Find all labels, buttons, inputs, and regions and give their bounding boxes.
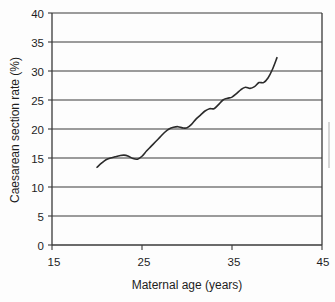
y-axis-title: Caesarean section rate (%): [8, 57, 22, 203]
y-tick-label-20: 20: [31, 124, 44, 136]
chart-screenshot: 40 35 30 25 20 15 10 5 0 15 25 35 45 Cae…: [0, 0, 335, 302]
x-tick-label-25: 25: [138, 256, 151, 268]
y-tick-label-15: 15: [31, 153, 44, 165]
x-tick-label-45: 45: [317, 256, 330, 268]
y-tick-label-25: 25: [31, 95, 44, 107]
caesarean-rate-line-chart: 40 35 30 25 20 15 10 5 0 15 25 35 45 Cae…: [0, 0, 335, 302]
y-tick-label-30: 30: [31, 66, 44, 78]
y-tick-label-40: 40: [31, 8, 44, 20]
x-axis-title: Maternal age (years): [132, 278, 243, 292]
y-tick-label-35: 35: [31, 37, 44, 49]
y-tick-label-5: 5: [38, 211, 44, 223]
x-tick-label-15: 15: [48, 256, 61, 268]
y-tick-label-10: 10: [31, 182, 44, 194]
y-tick-label-0: 0: [38, 240, 44, 252]
x-tick-label-35: 35: [228, 256, 241, 268]
